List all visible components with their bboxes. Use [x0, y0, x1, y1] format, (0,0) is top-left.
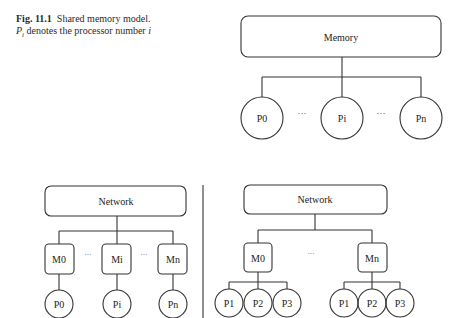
network-label: Network: [99, 196, 134, 207]
processor-label: Pi: [113, 299, 122, 310]
processor-label: Pi: [338, 113, 347, 124]
ellipsis: ···: [308, 250, 315, 258]
memory-module-label: Mn: [166, 254, 180, 265]
processor-label: P1: [339, 298, 350, 309]
memory-module-label: Mn: [365, 253, 379, 264]
diagram-canvas: Memory P0 Pi Pn ··· ··· Network M0 Mi Mn…: [0, 0, 453, 318]
memory-label: Memory: [324, 32, 358, 43]
ellipsis: ···: [141, 251, 148, 259]
processor-label: P0: [257, 113, 268, 124]
processor-label: Pn: [416, 113, 427, 124]
memory-module-label: M0: [251, 253, 265, 264]
ellipsis: ···: [298, 108, 307, 118]
processor-label: P1: [224, 298, 235, 309]
memory-module-label: Mi: [111, 254, 123, 265]
processor-label: Pn: [168, 299, 179, 310]
processor-label: P0: [54, 299, 65, 310]
processor-label: P3: [395, 298, 406, 309]
network-label: Network: [298, 194, 333, 205]
processor-label: P2: [253, 298, 264, 309]
ellipsis: ···: [85, 251, 92, 259]
ellipsis: ···: [377, 108, 386, 118]
memory-module-label: M0: [52, 254, 66, 265]
processor-label: P2: [367, 298, 378, 309]
processor-label: P3: [282, 298, 293, 309]
